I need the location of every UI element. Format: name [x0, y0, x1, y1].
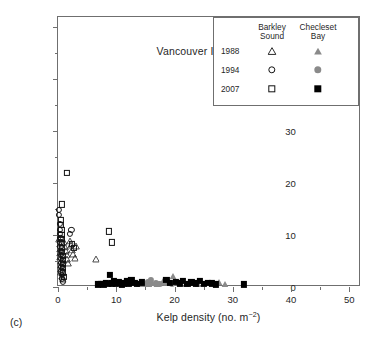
data-point: [205, 280, 211, 286]
legend-circle-filled-gray-icon: [314, 66, 321, 73]
x-tick-minor-25: [204, 287, 205, 290]
x-tick-label-10: 10: [103, 294, 129, 305]
y-tick-label-0: 0: [272, 282, 296, 293]
y-tick-major-20: [53, 183, 58, 184]
data-point: [58, 272, 66, 280]
data-point: [63, 251, 71, 259]
data-point: [241, 281, 247, 287]
data-point: [170, 272, 178, 280]
x-tick-major-30: [233, 287, 234, 292]
data-point: [57, 235, 63, 241]
data-point: [124, 278, 130, 284]
data-point: [59, 201, 65, 207]
data-point: [192, 280, 198, 286]
data-point: [60, 269, 66, 275]
legend-marker-checleset-1994: [292, 63, 344, 77]
x-axis-title: Kelp density (no. m−2): [57, 309, 360, 323]
data-point: [180, 278, 186, 284]
data-point: [59, 272, 65, 278]
data-point: [156, 281, 162, 287]
data-point: [65, 259, 73, 267]
y-tick-label-20: 20: [272, 178, 296, 189]
y-tick-minor-45: [55, 53, 58, 54]
data-point: [116, 279, 122, 285]
y-tick-label-30: 30: [272, 126, 296, 137]
data-point: [57, 243, 63, 249]
x-tick-major-0: [58, 287, 59, 292]
data-point: [66, 237, 74, 245]
data-point: [57, 231, 63, 237]
data-point: [139, 279, 145, 285]
data-point: [57, 261, 65, 269]
data-point: [165, 279, 173, 287]
data-point: [188, 279, 194, 285]
data-point: [109, 239, 115, 245]
legend: BarkleySoundCheclesetBay198819942007: [213, 17, 359, 106]
data-point: [215, 279, 223, 287]
data-point: [58, 264, 64, 270]
data-point: [56, 245, 64, 253]
data-point: [60, 261, 66, 267]
data-point: [194, 281, 202, 289]
data-point: [58, 248, 64, 254]
x-tick-label-50: 50: [336, 294, 362, 305]
y-tick-major-40: [53, 79, 58, 80]
x-tick-minor-45: [320, 287, 321, 290]
legend-square-open-icon: [268, 85, 275, 92]
y-tick-minor-35: [55, 105, 58, 106]
y-tick-major-50: [53, 27, 58, 28]
x-tick-major-10: [116, 287, 117, 292]
data-point: [58, 269, 66, 277]
data-point: [118, 281, 124, 287]
panel-letter: (c): [10, 316, 22, 328]
data-point: [165, 279, 171, 285]
data-point: [106, 228, 112, 234]
data-point: [64, 170, 70, 176]
data-point: [98, 281, 104, 287]
data-point: [149, 280, 157, 288]
data-point: [60, 257, 66, 263]
data-point: [58, 268, 64, 274]
figure-panel: Sea urchin density (no. m−2) Kelp densit…: [0, 0, 374, 346]
data-point: [128, 277, 134, 283]
data-point: [58, 231, 64, 237]
data-point: [173, 278, 181, 286]
legend-triangle-open-icon: [268, 47, 277, 56]
x-tick-label-30: 30: [220, 294, 246, 305]
data-point: [182, 280, 190, 288]
data-point: [58, 256, 64, 262]
legend-circle-open-icon: [268, 66, 275, 73]
legend-square-filled-black-icon: [314, 85, 321, 92]
data-point: [57, 253, 65, 261]
data-point: [60, 279, 66, 285]
data-point: [72, 242, 80, 250]
y-tick-major-30: [53, 131, 58, 132]
data-point: [55, 235, 63, 243]
legend-marker-checleset-2007: [292, 82, 344, 96]
data-point: [67, 242, 75, 250]
data-point: [160, 277, 168, 285]
data-point: [59, 275, 67, 283]
data-point: [126, 281, 132, 287]
data-point: [163, 277, 169, 283]
data-point: [60, 239, 68, 247]
data-point: [148, 277, 154, 283]
data-point: [61, 243, 69, 251]
data-point: [69, 241, 75, 247]
legend-marker-barkley-1994: [246, 63, 298, 77]
data-point: [58, 260, 64, 266]
data-point: [105, 281, 111, 287]
x-tick-label-40: 40: [278, 294, 304, 305]
data-point: [153, 280, 159, 286]
data-point: [58, 227, 64, 233]
data-point: [131, 280, 137, 286]
data-point: [57, 221, 63, 227]
data-point: [60, 253, 66, 259]
data-point: [109, 280, 115, 286]
data-point: [100, 281, 106, 287]
data-point: [62, 247, 70, 255]
legend-triangle-filled-gray-icon: [314, 47, 323, 56]
data-point: [67, 230, 73, 236]
data-point: [92, 255, 100, 263]
x-tick-major-40: [291, 287, 292, 292]
